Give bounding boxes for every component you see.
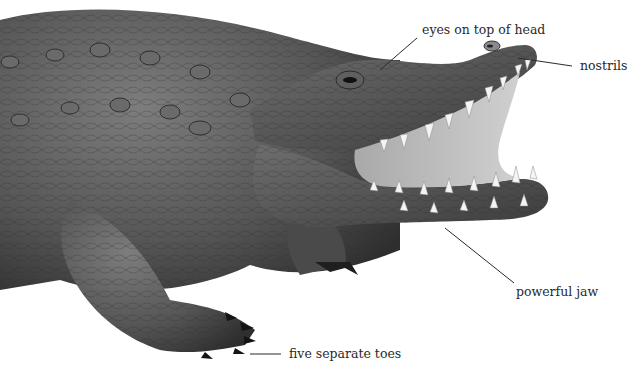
label-eyes: eyes on top of head xyxy=(422,22,545,37)
label-toes: five separate toes xyxy=(289,346,401,361)
crocodile-illustration xyxy=(0,0,639,390)
crocodile-diagram: eyes on top of head nostrils powerful ja… xyxy=(0,0,639,390)
label-nostrils: nostrils xyxy=(580,58,627,73)
jaw-leader-line xyxy=(445,228,514,283)
label-jaw: powerful jaw xyxy=(516,284,598,299)
